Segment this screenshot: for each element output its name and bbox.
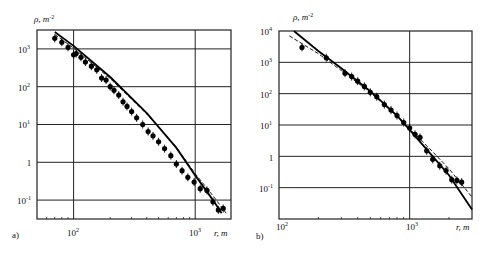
data-point (156, 139, 161, 144)
data-point (162, 146, 167, 151)
panel-a-xlabel: r, m (214, 228, 228, 238)
data-point (111, 88, 116, 93)
data-point (108, 84, 113, 89)
data-point (74, 51, 79, 56)
data-point (168, 153, 173, 158)
fit-line-solid (294, 31, 472, 210)
data-point (174, 161, 179, 166)
panel-b-ytick-5: 10-1 (259, 183, 273, 194)
panel-b-series (289, 31, 472, 210)
data-point (192, 179, 197, 184)
panel-a: ρ, m-2 103 102 101 1 10-1 102 103 r, m a… (12, 14, 231, 240)
panel-b-ylabel: ρ, m-2 (292, 12, 313, 22)
data-point (103, 77, 108, 82)
panel-a-xtick-1: 103 (189, 227, 201, 238)
panel-b-label: b) (256, 231, 264, 241)
panel-a-label: a) (12, 230, 19, 240)
panel-b: ρ, m-2 104 103 102 101 1 10-1 102 103 r,… (256, 12, 472, 241)
panel-b-ytick-2: 102 (260, 89, 272, 100)
data-point (83, 59, 88, 64)
panel-b-gridlines (279, 31, 472, 219)
panel-a-ytick-0: 103 (18, 44, 30, 55)
data-point (185, 175, 190, 180)
figure: ρ, m-2 103 102 101 1 10-1 102 103 r, m a… (0, 0, 493, 254)
data-point (124, 104, 129, 109)
data-point (140, 122, 145, 127)
panel-b-xlabel: r, m (456, 222, 470, 232)
panel-a-ytick-4: 10-1 (17, 195, 31, 206)
data-point (129, 109, 134, 114)
data-point (52, 36, 57, 41)
panel-a-xtick-0: 102 (67, 227, 79, 238)
panel-a-ytick-2: 101 (18, 119, 30, 130)
data-point (150, 133, 155, 138)
data-point (179, 168, 184, 173)
data-point (299, 45, 304, 50)
panel-b-ytick-3: 101 (260, 120, 272, 131)
data-point (198, 186, 203, 191)
panel-b-ytick-0: 104 (260, 26, 272, 37)
panel-a-series (52, 32, 226, 214)
data-point (99, 75, 104, 80)
data-point (116, 92, 121, 97)
data-point (146, 129, 151, 134)
panel-a-ylabel: ρ, m-2 (33, 14, 54, 24)
data-point (134, 115, 139, 120)
data-point (59, 40, 64, 45)
panel-a-ytick-3: 1 (27, 158, 32, 168)
panel-b-ytick-4: 1 (269, 153, 274, 163)
panel-a-ytick-1: 102 (18, 82, 30, 93)
data-point (120, 99, 125, 104)
panel-b-xtick-0: 102 (276, 221, 288, 232)
panel-b-ytick-1: 103 (260, 57, 272, 68)
fit-line-dashed (289, 36, 472, 197)
data-point (78, 55, 83, 60)
panel-b-xtick-1: 103 (406, 221, 418, 232)
